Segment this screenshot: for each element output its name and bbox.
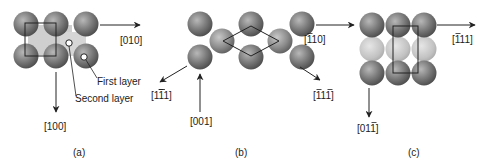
- first-layer-atom: [74, 12, 99, 37]
- atom: [239, 12, 264, 37]
- panel-c-caption: (c): [408, 147, 420, 158]
- atom: [290, 45, 315, 70]
- atom: [386, 13, 411, 38]
- middle-layer-atom: [412, 37, 437, 62]
- first-layer-atom: [14, 12, 39, 37]
- atom: [360, 61, 385, 86]
- first-layer-label: First layer: [97, 76, 142, 87]
- direction-label-1bar-11: [111]: [452, 34, 473, 45]
- panel-b-caption: (b): [235, 147, 247, 158]
- crystal-orientation-diagram: First layer Second layer [010] [100] (a)…: [0, 0, 485, 168]
- middle-layer-atom: [360, 37, 385, 62]
- second-layer-label: Second layer: [75, 93, 134, 104]
- direction-label-001: [001]: [190, 116, 212, 127]
- panel-c: [111] [011] (c): [357, 13, 475, 159]
- atom: [360, 13, 385, 38]
- second-layer-marker: [66, 40, 72, 46]
- panel-b: [111] [001] [110] [111] (b): [151, 12, 354, 159]
- direction-label-010: [010]: [120, 35, 142, 46]
- direction-label-1bar-10: [110]: [304, 34, 326, 45]
- atom: [412, 13, 437, 38]
- panel-a: First layer Second layer [010] [100] (a): [14, 12, 143, 159]
- middle-layer-atom: [386, 37, 411, 62]
- direction-label-1-1bar-1: [111]: [151, 90, 172, 101]
- direction-label-01-1bar: [011]: [357, 123, 379, 134]
- atom: [290, 12, 315, 37]
- direction-label-1bar-1-1bar: [111]: [313, 90, 334, 101]
- atom: [239, 45, 264, 70]
- direction-arrow-1bar-1-1bar: [300, 67, 320, 80]
- atom: [188, 45, 213, 70]
- atom: [188, 12, 213, 37]
- panel-a-caption: (a): [73, 147, 85, 158]
- direction-label-100: [100]: [44, 121, 66, 132]
- first-layer-marker: [81, 54, 87, 60]
- direction-arrow-1-1bar-1: [160, 66, 187, 82]
